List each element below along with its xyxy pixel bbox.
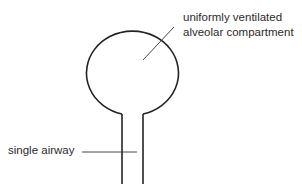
compartment-label-line-2: alveolar compartment xyxy=(183,25,294,40)
compartment-label: uniformly ventilated alveolar compartmen… xyxy=(183,10,294,40)
compartment-label-line-1: uniformly ventilated xyxy=(183,10,294,25)
airway-label: single airway xyxy=(8,143,74,158)
compartment-leader-line xyxy=(143,27,174,60)
alveolar-compartment-outline xyxy=(86,31,178,114)
